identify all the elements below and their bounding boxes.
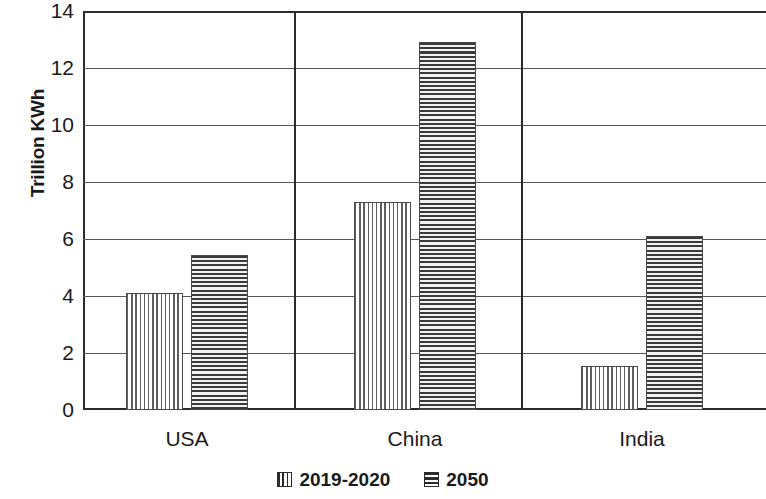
plot-area: [83, 11, 766, 410]
bar-usa-2050: [191, 255, 248, 410]
y-tick-label: 0: [0, 399, 74, 420]
bar-chart: Trillion KWh 02468101214 USAChinaIndia 2…: [0, 0, 766, 499]
bar-china-2019-2020: [354, 202, 411, 410]
bar-india-2050: [646, 236, 703, 410]
bar-usa-2019-2020: [126, 293, 183, 410]
y-tick-label: 6: [0, 228, 74, 249]
bar-china-2050: [419, 42, 476, 410]
legend-item[interactable]: 2019-2020: [277, 470, 390, 489]
group-divider: [521, 11, 523, 410]
legend-label: 2019-2020: [299, 470, 390, 489]
legend-label: 2050: [446, 470, 488, 489]
y-axis-line: [83, 11, 85, 410]
bar-india-2019-2020: [581, 366, 638, 410]
x-category-label: China: [311, 428, 519, 449]
y-tick-label: 10: [0, 114, 74, 135]
x-category-label: India: [538, 428, 746, 449]
x-category-label: USA: [83, 428, 291, 449]
horizontal-stripe-swatch-icon: [424, 472, 439, 487]
chart-legend: 2019-20202050: [0, 470, 766, 489]
vertical-stripe-swatch-icon: [277, 472, 292, 487]
y-tick-label: 8: [0, 171, 74, 192]
y-tick-label: 14: [0, 0, 74, 21]
x-axis-category-labels: USAChinaIndia: [83, 428, 766, 460]
gridline: [83, 11, 766, 13]
legend-item[interactable]: 2050: [424, 470, 488, 489]
y-axis-tick-labels: 02468101214: [0, 0, 74, 499]
group-divider: [294, 11, 296, 410]
y-tick-label: 4: [0, 285, 74, 306]
y-tick-label: 12: [0, 57, 74, 78]
y-tick-label: 2: [0, 342, 74, 363]
